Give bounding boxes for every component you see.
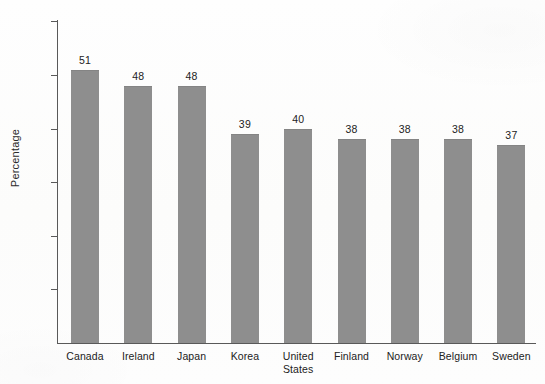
bar-item: 40UnitedStates [271, 0, 325, 384]
bar-rect [178, 86, 206, 343]
bar-item: 38Norway [378, 0, 432, 384]
bar-item: 37Sweden [484, 0, 538, 384]
bar-rect [71, 70, 99, 343]
bar-rect [231, 134, 259, 343]
bar-value-label: 38 [431, 123, 485, 135]
y-tick-mark [51, 75, 57, 76]
bar-item: 38Belgium [431, 0, 485, 384]
y-tick-mark [51, 182, 57, 183]
bar-value-label: 38 [325, 123, 379, 135]
bar-value-label: 40 [271, 113, 325, 125]
y-tick-mark [51, 289, 57, 290]
bar-value-label: 48 [165, 70, 219, 82]
y-axis-title: Percentage [9, 118, 21, 198]
bar-rect [284, 129, 312, 343]
bar-item: 51Canada [58, 0, 112, 384]
y-tick-mark [51, 129, 57, 130]
y-tick-mark [51, 236, 57, 237]
bar-item: 38Finland [325, 0, 379, 384]
bar-rect [497, 145, 525, 343]
bar-value-label: 51 [58, 54, 112, 66]
bar-rect [338, 139, 366, 343]
bar-item: 48Japan [165, 0, 219, 384]
bar-item: 48Ireland [111, 0, 165, 384]
bar-item: 39Korea [218, 0, 272, 384]
bar-rect [124, 86, 152, 343]
bar-rect [391, 139, 419, 343]
bar-value-label: 39 [218, 118, 272, 130]
y-tick-mark [51, 21, 57, 22]
bar-value-label: 37 [484, 129, 538, 141]
bar-rect [444, 139, 472, 343]
x-tick-label: Sweden [480, 350, 542, 363]
bar-chart-figure: Percentage 102030405060 51Canada48Irelan… [0, 0, 545, 384]
bar-value-label: 48 [111, 70, 165, 82]
bar-value-label: 38 [378, 123, 432, 135]
